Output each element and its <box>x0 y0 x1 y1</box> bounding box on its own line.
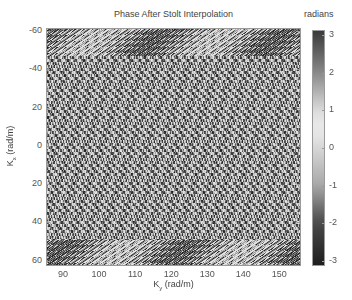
x-tick-mark <box>63 262 64 266</box>
y-tick-mark <box>46 69 50 70</box>
colorbar-tick-mark <box>322 35 325 36</box>
x-tick-label: 90 <box>48 269 78 279</box>
x-tick-mark <box>279 28 280 32</box>
y-tick-label: -60 <box>18 25 42 35</box>
y-tick-label: 20 <box>18 102 42 112</box>
y-tick-mark <box>46 222 50 223</box>
y-tick-mark <box>297 146 301 147</box>
y-tick-label: 60 <box>18 255 42 265</box>
colorbar-tick-label: -2 <box>329 217 337 227</box>
colorbar-tick-mark <box>322 73 325 74</box>
x-tick-label: 140 <box>228 269 258 279</box>
phase-heatmap <box>47 29 301 266</box>
colorbar-tick-label: 1 <box>329 104 334 114</box>
colorbar-tick-label: -3 <box>329 255 337 265</box>
x-tick-mark <box>135 262 136 266</box>
y-tick-mark <box>297 69 301 70</box>
colorbar-tick-mark <box>322 148 325 149</box>
y-tick-mark <box>46 261 50 262</box>
x-tick-mark <box>243 262 244 266</box>
colorbar-label: radians <box>304 9 334 19</box>
y-tick-label: -40 <box>18 63 42 73</box>
y-tick-mark <box>297 184 301 185</box>
y-axis-label: Kx (rad/m) <box>5 101 17 191</box>
x-tick-mark <box>207 262 208 266</box>
x-tick-mark <box>99 262 100 266</box>
colorbar-tick-label: -1 <box>329 180 337 190</box>
chart-title: Phase After Stolt Interpolation <box>46 9 301 19</box>
x-tick-label: 150 <box>264 269 294 279</box>
x-tick-mark <box>63 28 64 32</box>
x-tick-mark <box>171 28 172 32</box>
x-tick-mark <box>135 28 136 32</box>
y-tick-mark <box>297 261 301 262</box>
y-tick-label: 40 <box>18 216 42 226</box>
y-tick-mark <box>46 184 50 185</box>
x-tick-mark <box>279 262 280 266</box>
x-tick-label: 110 <box>120 269 150 279</box>
colorbar-tick-label: 2 <box>329 67 334 77</box>
x-tick-mark <box>243 28 244 32</box>
x-tick-mark <box>99 28 100 32</box>
colorbar-tick-mark <box>322 110 325 111</box>
colorbar-tick-label: 3 <box>329 29 334 39</box>
y-tick-label: 0 <box>18 140 42 150</box>
x-tick-label: 120 <box>156 269 186 279</box>
colorbar-tick-mark <box>322 223 325 224</box>
x-tick-mark <box>207 28 208 32</box>
y-tick-mark <box>46 146 50 147</box>
x-axis-label: Ky (rad/m) <box>46 279 301 291</box>
colorbar-tick-mark <box>322 261 325 262</box>
x-tick-mark <box>171 262 172 266</box>
y-tick-mark <box>297 222 301 223</box>
x-tick-label: 130 <box>192 269 222 279</box>
colorbar-tick-mark <box>322 186 325 187</box>
y-tick-label: 20 <box>18 178 42 188</box>
y-tick-mark <box>46 108 50 109</box>
y-tick-mark <box>297 31 301 32</box>
y-tick-mark <box>46 31 50 32</box>
colorbar-tick-label: 0 <box>329 142 334 152</box>
plot-area <box>46 28 301 266</box>
y-tick-mark <box>297 108 301 109</box>
x-tick-label: 100 <box>84 269 114 279</box>
